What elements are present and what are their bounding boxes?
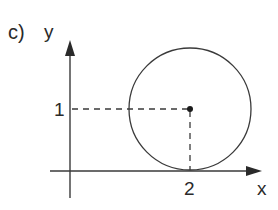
diagram-canvas: c) y 1 2 x [0, 0, 278, 210]
x-axis-label: x [257, 179, 267, 198]
y-tick-label: 1 [54, 100, 65, 119]
x-tick-label: 2 [184, 179, 195, 198]
x-axis-arrow-icon [246, 166, 262, 176]
center-point [187, 106, 193, 112]
y-axis-label: y [44, 22, 54, 41]
y-axis-arrow-icon [65, 40, 75, 56]
coordinate-plot [0, 0, 278, 210]
part-label: c) [8, 22, 25, 42]
